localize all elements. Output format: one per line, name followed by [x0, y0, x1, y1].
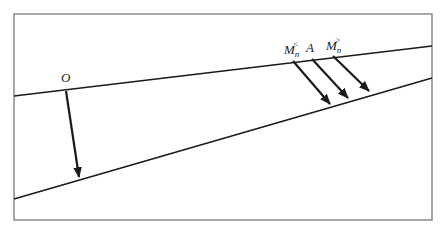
arrow-mn-greater [333, 56, 369, 91]
label-mn-less-sup: < [293, 39, 298, 49]
label-o: O [61, 70, 71, 85]
lower-line [14, 78, 432, 199]
label-a: A [305, 40, 314, 55]
label-mn-greater-sup: > [335, 35, 340, 45]
label-mn-less: Mn< [283, 39, 300, 59]
frame-border [14, 14, 432, 220]
label-mn-greater: Mn> [325, 35, 342, 55]
arrow-mn-less [293, 61, 330, 104]
arrow-o [66, 91, 79, 177]
label-mn-less-sub: n [295, 49, 300, 59]
diagram: O Mn< A Mn> [0, 0, 445, 234]
label-mn-greater-sub: n [337, 45, 342, 55]
upper-line [14, 46, 432, 96]
